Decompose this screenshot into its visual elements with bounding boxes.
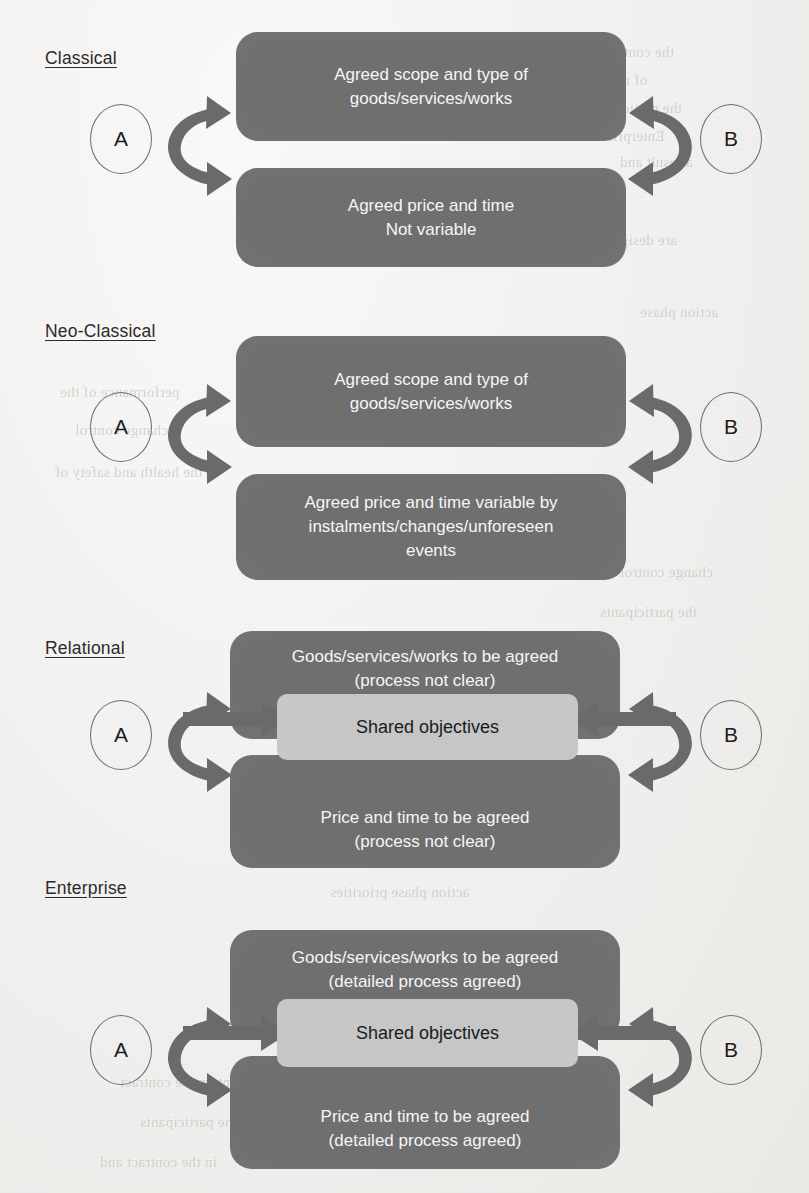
section-label-relational: Relational [45, 638, 125, 659]
section-relational: Relational A B Goods/services/works to b… [0, 600, 809, 890]
curved-double-arrow-left-icon [155, 688, 235, 798]
box-enterprise-price: Price and time to be agreed (detailed pr… [230, 1056, 620, 1169]
curved-double-arrow-left-icon [155, 380, 235, 490]
box-classical-scope: Agreed scope and type of goods/services/… [236, 32, 626, 141]
box-enterprise-shared-objectives: Shared objectives [277, 999, 578, 1067]
party-a-classical: A [90, 104, 152, 174]
box-neoclassical-price: Agreed price and time variable by instal… [236, 474, 626, 580]
party-b-label: B [724, 1038, 738, 1062]
box-neoclassical-scope: Agreed scope and type of goods/services/… [236, 336, 626, 447]
party-a-label: A [114, 127, 128, 151]
party-b-relational: B [700, 700, 762, 770]
party-b-classical: B [700, 104, 762, 174]
section-enterprise: Enterprise A B Goods/services/works to b… [0, 880, 809, 1193]
party-a-neo-classical: A [90, 392, 152, 462]
party-a-label: A [114, 723, 128, 747]
party-b-label: B [724, 723, 738, 747]
box-classical-price: Agreed price and time Not variable [236, 168, 626, 267]
party-a-enterprise: A [90, 1015, 152, 1085]
curved-double-arrow-right-icon [625, 1003, 705, 1113]
curved-double-arrow-right-icon [625, 92, 705, 202]
party-a-label: A [114, 415, 128, 439]
section-label-enterprise: Enterprise [45, 878, 127, 899]
party-a-relational: A [90, 700, 152, 770]
section-neo-classical: Neo-Classical A B Agreed scope and type … [0, 290, 809, 600]
section-label-classical: Classical [45, 48, 117, 69]
box-relational-shared-objectives: Shared objectives [277, 694, 578, 760]
party-a-label: A [114, 1038, 128, 1062]
curved-double-arrow-left-icon [155, 92, 235, 202]
party-b-enterprise: B [700, 1015, 762, 1085]
party-b-label: B [724, 127, 738, 151]
party-b-neo-classical: B [700, 392, 762, 462]
section-classical: Classical A B Agreed scope and type of g… [0, 0, 809, 290]
section-label-neo-classical: Neo-Classical [45, 321, 156, 342]
curved-double-arrow-left-icon [155, 1003, 235, 1113]
curved-double-arrow-right-icon [625, 688, 705, 798]
party-b-label: B [724, 415, 738, 439]
box-relational-price: Price and time to be agreed (process not… [230, 755, 620, 868]
curved-double-arrow-right-icon [625, 380, 705, 490]
